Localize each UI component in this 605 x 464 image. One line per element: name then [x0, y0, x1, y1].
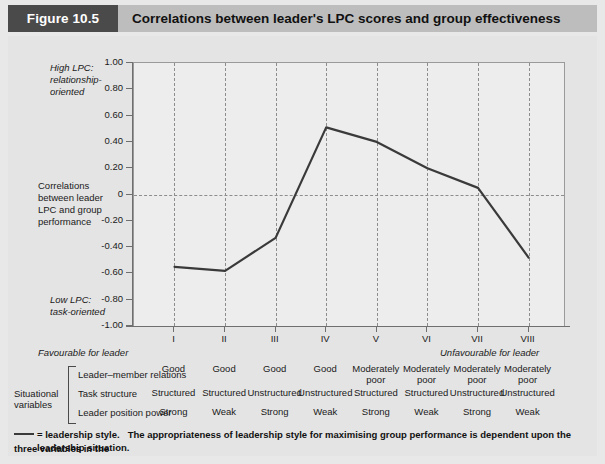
plot-area — [133, 62, 565, 327]
leadership-style-line — [175, 127, 529, 270]
situational-variable-cell: Weak — [497, 407, 559, 418]
situational-variable-row: Task structureStructuredStructuredUnstru… — [78, 384, 578, 403]
series-line-chart — [134, 63, 564, 326]
x-axis-line — [126, 326, 570, 327]
x-tick-mark — [325, 326, 326, 332]
x-tick-mark — [224, 326, 225, 332]
x-tick-mark — [173, 326, 174, 332]
x-tick-mark — [528, 326, 529, 332]
x-tick-mark — [426, 326, 427, 332]
x-tick-label: VIII — [498, 333, 558, 344]
y-tick-mark — [126, 167, 133, 168]
figure-body: 1.000.800.600.400.200-0.20-0.40-0.60-0.8… — [8, 36, 597, 456]
y-tick-label: -0.60 — [63, 266, 123, 277]
y-tick-label: 0.60 — [63, 109, 123, 120]
figure-number-tag: Figure 10.5 — [8, 5, 118, 32]
footnote-line-2: leadership situation. — [37, 442, 129, 453]
plot-inner — [134, 63, 564, 326]
y-tick-label: -1.00 — [63, 319, 123, 330]
y-tick-label: 0.20 — [63, 161, 123, 172]
x-tick-mark — [376, 326, 377, 332]
y-tick-mark — [126, 141, 133, 142]
situational-variable-row: Leader position powerStrongWeakStrongWea… — [78, 403, 578, 422]
y-tick-mark — [126, 272, 133, 273]
situational-variable-cell: Moderatelypoor — [497, 364, 559, 385]
situational-variables-table: Leader–member relationsGoodGoodGoodGoodM… — [78, 365, 578, 422]
y-tick-mark — [126, 246, 133, 247]
figure-title: Correlations between leader's LPC scores… — [118, 5, 597, 32]
y-axis-caption: Correlationsbetween leaderLPC and groupp… — [38, 180, 130, 228]
y-tick-label: -0.40 — [63, 240, 123, 251]
unfavourable-for-leader-label: Unfavourable for leader — [440, 347, 539, 359]
x-tick-mark — [275, 326, 276, 332]
situational-variables-label: Situationalvariables — [14, 388, 70, 410]
brace-decoration — [68, 366, 76, 424]
figure-root: Figure 10.5 Correlations between leader'… — [0, 0, 605, 464]
favourable-for-leader-label: Favourable for leader — [38, 347, 128, 359]
situational-variable-row: Leader–member relationsGoodGoodGoodGoodM… — [78, 365, 578, 384]
figure-header: Figure 10.5 Correlations between leader'… — [8, 5, 597, 32]
legend-line-icon — [14, 433, 34, 435]
y-tick-mark — [126, 115, 133, 116]
situational-variable-cell: Unstructured — [497, 388, 559, 399]
high-lpc-annotation: High LPC:relationship-oriented — [50, 62, 128, 98]
situational-variable-name: Task structure — [78, 388, 137, 399]
low-lpc-annotation: Low LPC:task-oriented — [50, 294, 130, 318]
y-tick-label: 0.40 — [63, 135, 123, 146]
legend-label: = leadership style. — [37, 429, 120, 440]
x-tick-mark — [477, 326, 478, 332]
